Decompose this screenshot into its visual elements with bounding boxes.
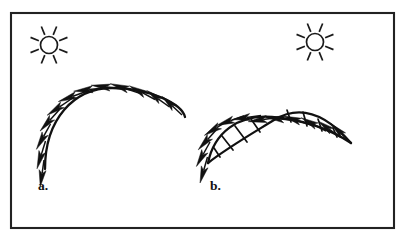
sun-ray <box>319 24 322 32</box>
diagram-canvas: a. b. <box>0 0 410 245</box>
sun-ray <box>59 37 67 40</box>
panel-a-label: a. <box>38 178 48 193</box>
sun-ray <box>31 49 39 52</box>
sun-disc-icon <box>307 34 324 51</box>
sun-ray <box>41 55 44 63</box>
arrow-head <box>129 86 147 98</box>
panel-b <box>196 24 351 183</box>
outer-border <box>11 13 394 228</box>
sun-ray <box>53 55 56 63</box>
arrow-shaft <box>42 160 44 173</box>
sun-ray <box>325 46 333 49</box>
panel-a <box>31 27 185 187</box>
sun-disc-icon <box>41 37 58 54</box>
sun-ray <box>307 24 310 32</box>
sun-ray <box>53 27 56 35</box>
sun-icon <box>31 27 68 64</box>
sun-ray <box>319 52 322 60</box>
normal-arrow <box>162 97 182 115</box>
arrow-shaft <box>204 157 208 170</box>
sun-ray <box>31 37 39 40</box>
sun-ray <box>297 34 305 37</box>
panel-b-label: b. <box>210 178 221 193</box>
sun-ray <box>325 34 333 37</box>
sun-ray <box>59 49 67 52</box>
sun-icon <box>297 24 334 61</box>
sun-ray <box>41 27 44 35</box>
figure-container: a. b. <box>0 0 410 245</box>
sun-ray <box>297 46 305 49</box>
sun-ray <box>307 52 310 60</box>
